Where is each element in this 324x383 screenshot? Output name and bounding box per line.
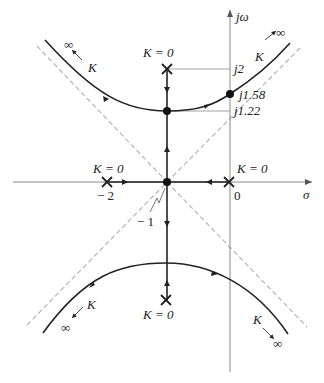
point-centroid bbox=[163, 178, 171, 186]
tick-j158: j1.58 bbox=[237, 87, 266, 102]
imag-axis-label: jω bbox=[234, 9, 249, 24]
pole-label-minus2: K = 0 bbox=[92, 161, 124, 176]
pole-label-lower: K = 0 bbox=[142, 307, 174, 322]
asymptote-lower-left bbox=[27, 182, 167, 325]
key-points bbox=[163, 90, 234, 186]
infinity-upper-right: ∞ bbox=[276, 25, 285, 40]
gain-label-upper-right: K bbox=[254, 49, 265, 64]
locus-branches bbox=[43, 40, 290, 334]
tick-j2: j2 bbox=[232, 61, 245, 76]
gain-arrows bbox=[72, 31, 276, 339]
real-axis-label: σ bbox=[303, 187, 310, 202]
tick-minus2: − 2 bbox=[97, 188, 114, 203]
point-crossing bbox=[226, 90, 234, 98]
infinity-lower-left: ∞ bbox=[61, 320, 70, 335]
tick-minus1: − 1 bbox=[137, 214, 154, 229]
pole-marker-lower bbox=[161, 295, 171, 305]
pole-label-upper: K = 0 bbox=[142, 45, 174, 60]
tick-0: 0 bbox=[234, 188, 241, 203]
tick-j122: j1.22 bbox=[232, 103, 261, 118]
infinity-lower-right: ∞ bbox=[273, 336, 282, 351]
gain-label-lower-left: K bbox=[86, 297, 97, 312]
gain-label-upper-left: K bbox=[87, 60, 98, 75]
root-locus-diagram: jω σ K = 0 K = 0 K = 0 K = 0 − 2 0 − 1 j… bbox=[0, 0, 324, 383]
gain-label-lower-right: K bbox=[252, 312, 263, 327]
asymptote-lower-right bbox=[167, 182, 307, 327]
pole-label-0: K = 0 bbox=[236, 161, 268, 176]
guide-lines bbox=[167, 69, 230, 111]
infinity-upper-left: ∞ bbox=[64, 37, 73, 52]
point-breakaway bbox=[163, 107, 171, 115]
